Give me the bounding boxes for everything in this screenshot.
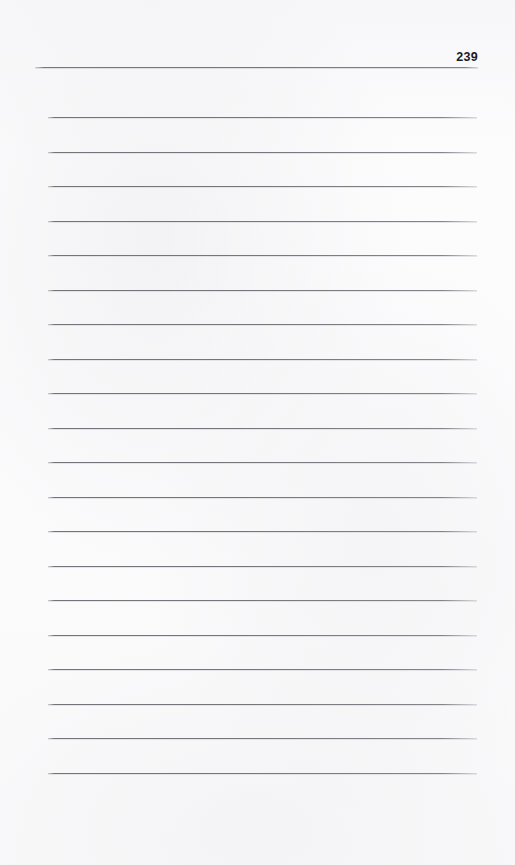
rule-line — [48, 428, 477, 429]
rule-line — [48, 152, 477, 153]
rule-line — [48, 462, 477, 463]
rule-line — [48, 359, 477, 360]
rule-line — [48, 221, 477, 222]
rule-line — [48, 669, 477, 670]
rule-line — [48, 117, 477, 118]
rule-line — [48, 635, 477, 636]
rule-line — [48, 773, 477, 774]
rule-line — [48, 531, 477, 532]
rule-line — [48, 566, 477, 567]
ruled-lines-area — [48, 117, 477, 774]
rule-line — [48, 290, 477, 291]
rule-line — [48, 255, 477, 256]
rule-line — [48, 393, 477, 394]
page-header: 239 — [35, 38, 478, 68]
rule-line — [48, 600, 477, 601]
notebook-page: 239 — [0, 0, 515, 865]
rule-line — [48, 738, 477, 739]
rule-line — [48, 497, 477, 498]
header-rule — [35, 67, 478, 68]
rule-line — [48, 324, 477, 325]
rule-line — [48, 704, 477, 705]
rule-line — [48, 186, 477, 187]
page-number: 239 — [456, 51, 478, 64]
